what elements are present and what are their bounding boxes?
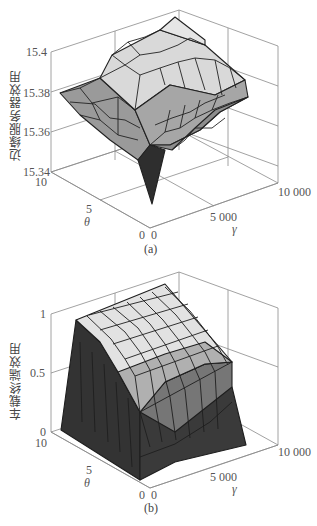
gamma-axis-label-a: γ bbox=[232, 223, 237, 235]
surface-plot-b bbox=[0, 262, 317, 526]
z-tick-15-4: 15.4 bbox=[26, 46, 47, 58]
z-tick-15-38: 15.38 bbox=[23, 87, 50, 99]
chart-panel-a: 边缘服务器效用 15.4 15.38 15.36 15.34 10 5 θ 0 … bbox=[0, 0, 317, 262]
z-axis-label-a: 边缘服务器效用 bbox=[10, 70, 22, 161]
theta-tick-10-a: 10 bbox=[35, 176, 47, 188]
theta-tick-0-a: 0 bbox=[139, 229, 145, 241]
theta-axis-label-b: θ bbox=[84, 477, 90, 489]
theta-axis-label-a: θ bbox=[84, 216, 90, 228]
theta-tick-10-b: 10 bbox=[35, 437, 47, 449]
caption-b: (b) bbox=[144, 502, 158, 514]
surface-b bbox=[61, 284, 246, 480]
z-tick-15-36: 15.36 bbox=[23, 126, 50, 138]
theta-tick-5-b: 5 bbox=[86, 464, 92, 476]
gamma-axis-label-b: γ bbox=[232, 483, 237, 495]
gamma-tick-0-b: 0 bbox=[151, 489, 157, 501]
chart-panel-b: 车载终端效用 1 0.5 0 10 5 θ 0 0 5 000 γ 10 000… bbox=[0, 262, 317, 526]
gamma-tick-0-a: 0 bbox=[151, 229, 157, 241]
caption-a: (a) bbox=[144, 243, 157, 255]
theta-tick-0-b: 0 bbox=[139, 489, 145, 501]
z-axis-label-b: 车载终端效用 bbox=[10, 342, 22, 420]
z-tick-0-5: 0.5 bbox=[30, 367, 45, 379]
gamma-tick-10000-b: 10 000 bbox=[278, 446, 311, 458]
gamma-tick-10000-a: 10 000 bbox=[278, 186, 311, 198]
surface-a bbox=[60, 17, 248, 204]
theta-tick-5-a: 5 bbox=[86, 203, 92, 215]
z-tick-1: 1 bbox=[40, 308, 46, 320]
